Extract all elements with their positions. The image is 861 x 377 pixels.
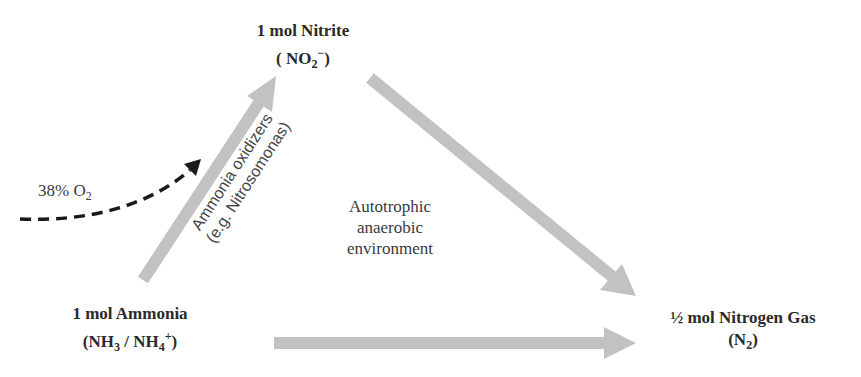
- nitrite-formula: ( NO2−): [228, 42, 378, 75]
- anammox-diagram: 1 mol Nitrite ( NO2−) 1 mol Ammonia (NH3…: [0, 0, 861, 377]
- environment-label: Autotrophic anaerobic environment: [335, 196, 445, 259]
- nitrite-title: 1 mol Nitrite: [228, 20, 378, 42]
- node-nitrite: 1 mol Nitrite ( NO2−): [228, 20, 378, 75]
- ammonia-formula: (NH3 / NH4+): [45, 325, 215, 358]
- arrow-nitrite-to-nitrogen: [370, 78, 636, 296]
- node-nitrogen-gas: ½ mol Nitrogen Gas (N2): [638, 307, 848, 356]
- nitrogen-title: ½ mol Nitrogen Gas: [638, 307, 848, 329]
- arrow-ammonia-to-nitrogen: [274, 327, 636, 359]
- ammonia-title: 1 mol Ammonia: [45, 303, 215, 325]
- oxygen-label: 38% O2: [38, 180, 92, 207]
- node-ammonia: 1 mol Ammonia (NH3 / NH4+): [45, 303, 215, 358]
- nitrogen-formula: (N2): [638, 329, 848, 356]
